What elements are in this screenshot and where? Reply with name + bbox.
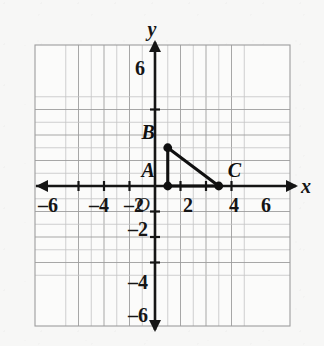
point-C xyxy=(214,182,223,191)
x-tick-label-4: 4 xyxy=(229,194,239,216)
y-axis-label: y xyxy=(146,18,157,41)
point-label-A: A xyxy=(139,159,154,181)
y-tick-label-6: 6 xyxy=(135,57,145,79)
coordinate-plane-figure: y x O –6 –4 –2 2 4 6 6 –2 –4 –6 ABC xyxy=(0,0,324,346)
y-tick-label--4: –4 xyxy=(127,271,148,293)
x-axis-arrow-right xyxy=(286,180,298,192)
point-B xyxy=(163,143,172,152)
point-A xyxy=(163,182,172,191)
point-label-B: B xyxy=(140,121,154,143)
x-tick-label--2: –2 xyxy=(123,194,144,216)
point-label-C: C xyxy=(228,159,242,181)
x-tick-label-6: 6 xyxy=(261,194,271,216)
x-tick-label--4: –4 xyxy=(88,194,109,216)
y-tick-label--2: –2 xyxy=(127,218,148,240)
y-tick-label--6: –6 xyxy=(127,304,148,326)
x-tick-label--6: –6 xyxy=(37,194,58,216)
x-axis-label: x xyxy=(300,175,311,197)
x-tick-label-2: 2 xyxy=(183,194,193,216)
